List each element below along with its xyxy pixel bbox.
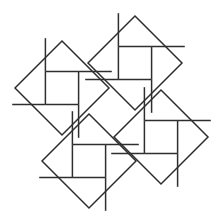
geometric-diagram-svg xyxy=(0,0,221,224)
figure-root xyxy=(0,0,221,224)
squares-layer xyxy=(12,13,211,211)
